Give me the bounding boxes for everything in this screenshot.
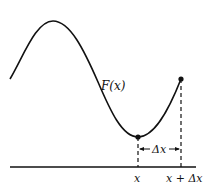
arrowhead-right-icon [175,147,180,151]
function-diagram: F(x) Δx x x + Δx [0,0,207,187]
arrowhead-left-icon [139,147,144,151]
x-tick-label: x [134,172,141,185]
function-label: F(x) [100,79,126,93]
delta-label: Δx [151,143,167,156]
function-curve [10,21,181,137]
x-plus-delta-label: x + Δx [166,172,203,185]
